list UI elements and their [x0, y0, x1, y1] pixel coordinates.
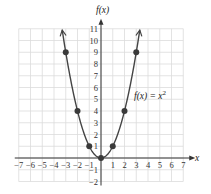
y-tick-label: 6: [94, 83, 98, 93]
x-tick-label: −5: [38, 160, 47, 170]
x-tick-label: −4: [49, 160, 59, 170]
parabola-chart: −7−6−5−4−3−2−11234567−2−11234567891011 f…: [0, 0, 211, 194]
data-point: [75, 108, 81, 114]
x-tick-label: −2: [73, 160, 82, 170]
equation-text: f(x) = x: [134, 91, 163, 102]
y-tick-label: 1: [94, 141, 98, 151]
data-point: [98, 155, 104, 161]
equation-label: f(x) = x2: [134, 89, 167, 102]
y-tick-label: 10: [90, 36, 99, 46]
data-point: [133, 49, 139, 55]
x-tick-label: 6: [169, 160, 173, 170]
y-tick-label: 5: [94, 94, 98, 104]
x-tick-label: 4: [146, 160, 151, 170]
y-tick-label: −2: [89, 177, 98, 187]
data-point: [122, 108, 128, 114]
y-tick-label: 3: [94, 118, 98, 128]
y-axis-label: f(x): [96, 5, 109, 16]
x-tick-label: −6: [26, 160, 35, 170]
equation-exponent: 2: [163, 89, 167, 97]
x-tick-label: 5: [158, 160, 162, 170]
data-point: [86, 143, 92, 149]
y-tick-label: 2: [94, 130, 98, 140]
x-tick-label: −3: [61, 160, 70, 170]
x-tick-label: 1: [111, 160, 115, 170]
x-tick-label: 2: [122, 160, 126, 170]
x-axis-label: x: [194, 153, 200, 163]
x-tick-label: 7: [181, 160, 185, 170]
y-tick-label: 8: [94, 59, 98, 69]
x-tick-label: 3: [134, 160, 138, 170]
y-tick-label: 7: [94, 71, 98, 81]
y-tick-label: −1: [89, 165, 98, 175]
data-point: [63, 49, 69, 55]
y-tick-label: 9: [94, 47, 98, 57]
y-axis-arrow-icon: [99, 19, 104, 25]
y-tick-label: 11: [90, 24, 98, 34]
x-tick-label: −7: [14, 160, 23, 170]
data-point: [110, 143, 116, 149]
